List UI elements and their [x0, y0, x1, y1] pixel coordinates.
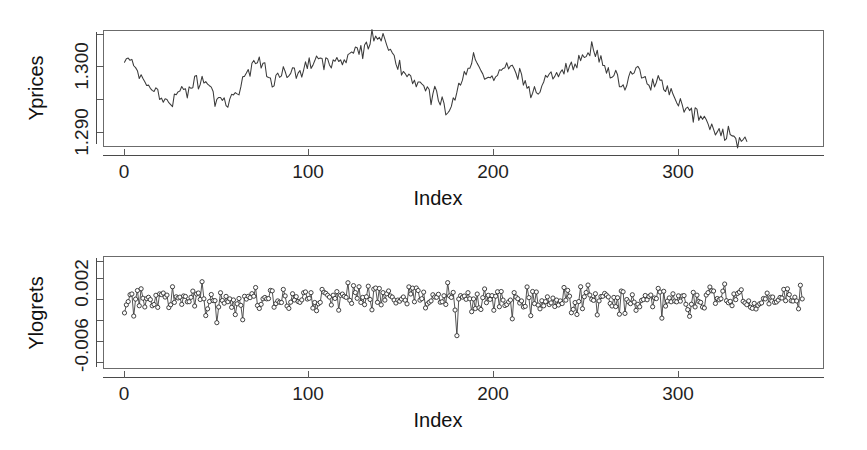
data-point — [501, 298, 505, 302]
data-point — [405, 302, 409, 306]
data-point — [130, 292, 134, 296]
data-point — [442, 294, 446, 298]
data-point — [466, 291, 470, 295]
data-point — [771, 295, 775, 299]
data-point — [287, 306, 291, 310]
data-point — [429, 299, 433, 303]
data-point — [333, 296, 337, 300]
yprices-chart-svg: 1.300 1.290 Yprices 0 100 200 300 Index — [0, 0, 867, 225]
data-point — [542, 304, 546, 308]
data-point — [586, 283, 590, 287]
data-point — [800, 297, 804, 301]
data-point — [747, 299, 751, 303]
data-point — [614, 305, 618, 309]
data-point — [494, 294, 498, 298]
data-point — [329, 303, 333, 307]
data-point — [241, 318, 245, 322]
data-point — [335, 290, 339, 294]
data-point — [660, 316, 664, 320]
data-point — [595, 313, 599, 317]
data-point — [215, 321, 219, 325]
data-point — [252, 294, 256, 298]
data-point — [471, 297, 475, 301]
data-point — [702, 306, 706, 310]
data-point — [684, 302, 688, 306]
data-point — [386, 289, 390, 293]
data-point — [279, 300, 283, 304]
data-point — [143, 305, 147, 309]
data-point — [654, 296, 658, 300]
yprices-ytick-label-lower: 1.290 — [71, 108, 92, 156]
data-point — [187, 300, 191, 304]
data-point — [510, 317, 514, 321]
data-point — [122, 311, 126, 315]
data-point — [662, 289, 666, 293]
data-point — [137, 304, 141, 308]
data-point — [481, 296, 485, 300]
data-point — [798, 283, 802, 287]
data-point — [512, 291, 516, 295]
data-point — [687, 314, 691, 318]
data-point — [538, 307, 542, 311]
data-point — [734, 298, 738, 302]
data-point — [436, 292, 440, 296]
data-point — [492, 308, 496, 312]
data-point — [152, 302, 156, 306]
data-point — [455, 334, 459, 338]
data-point — [562, 285, 566, 289]
data-point — [239, 303, 243, 307]
yprices-axis-title: Yprices — [25, 55, 47, 120]
data-point — [156, 305, 160, 309]
data-point — [290, 292, 294, 296]
data-point — [444, 302, 448, 306]
data-point — [663, 304, 667, 308]
data-point — [420, 297, 424, 301]
data-point — [377, 286, 381, 290]
data-point — [200, 280, 204, 284]
ylogrets-xaxis-title: Index — [414, 409, 463, 431]
data-point — [711, 289, 715, 293]
data-point — [196, 291, 200, 295]
ylogrets-ytick-label-lower: -0.006 — [71, 318, 92, 372]
data-point — [617, 312, 621, 316]
data-point — [281, 287, 285, 291]
data-point — [183, 294, 187, 298]
data-point — [193, 304, 197, 308]
data-point — [686, 308, 690, 312]
data-point — [133, 297, 137, 301]
yprices-xtick-label-200: 200 — [477, 161, 509, 182]
ylogrets-series-group — [122, 280, 804, 338]
data-point — [719, 297, 723, 301]
data-point — [337, 308, 341, 312]
data-point — [357, 285, 361, 289]
ylogrets-xtick-label-300: 300 — [662, 383, 694, 404]
data-point — [148, 298, 152, 302]
data-point — [564, 298, 568, 302]
data-point — [344, 295, 348, 299]
data-point — [615, 296, 619, 300]
data-point — [671, 292, 675, 296]
ylogrets-xtick-label-100: 100 — [292, 383, 324, 404]
yprices-xtick-label-300: 300 — [662, 161, 694, 182]
data-point — [132, 314, 136, 318]
data-point — [543, 300, 547, 304]
data-point — [230, 305, 234, 309]
yprices-ytick-label-upper: 1.300 — [71, 42, 92, 90]
data-point — [237, 296, 241, 300]
data-point — [379, 303, 383, 307]
yprices-x-axis: 0 100 200 300 — [103, 149, 824, 183]
data-point — [497, 305, 501, 309]
ylogrets-x-axis: 0 100 200 300 — [103, 371, 824, 405]
data-point — [353, 290, 357, 294]
data-point — [580, 307, 584, 311]
data-point — [139, 287, 143, 291]
data-point — [630, 293, 634, 297]
data-point — [728, 299, 732, 303]
data-point — [651, 305, 655, 309]
data-point — [283, 294, 287, 298]
data-point — [233, 312, 237, 316]
data-point — [760, 301, 764, 305]
data-point — [566, 288, 570, 292]
data-point — [582, 295, 586, 299]
data-point — [350, 301, 354, 305]
